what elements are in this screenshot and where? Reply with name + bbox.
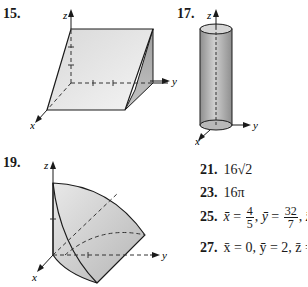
z-axis-label: z <box>206 9 212 21</box>
xbar: x̄ <box>224 209 230 224</box>
y-axis-label: y <box>161 249 167 261</box>
answer-27: 27.x̄ = 0, ȳ = 2, z̄ = 0 <box>200 240 307 256</box>
denominator: 5 <box>246 218 254 230</box>
x-axis-label: x <box>31 271 37 283</box>
answer-text: 16√2 <box>224 162 253 177</box>
figure-15-y-axis-arrow: y <box>150 75 180 87</box>
answer-number: 27. <box>200 240 218 255</box>
figure-15-wedge: z x <box>30 5 170 135</box>
figure-19-curved-solid: z y x <box>30 155 170 287</box>
figure-number-19: 19. <box>3 155 21 171</box>
y-axis-label: y <box>252 119 258 131</box>
zbar: z̄ <box>306 209 307 224</box>
answer-text: 16π <box>224 185 245 200</box>
answer-21: 21.16√2 <box>200 162 252 178</box>
answer-text: x̄ = 0, ȳ = 2, z̄ = 0 <box>224 240 308 255</box>
answer-number: 21. <box>200 162 218 177</box>
x-axis-label: x <box>30 119 35 131</box>
figure-number-17: 17. <box>177 6 195 22</box>
answer-23: 23.16π <box>200 185 245 201</box>
fraction-x: 45 <box>246 205 254 230</box>
answer-number: 23. <box>200 185 218 200</box>
z-axis-label: z <box>62 9 68 21</box>
figure-number-15: 15. <box>3 6 21 22</box>
y-axis-label: y <box>171 75 177 87</box>
fraction-y: 327 <box>284 205 298 230</box>
z-axis-label: z <box>43 159 49 171</box>
figure-17-cylinder: z y x <box>195 5 307 145</box>
denominator: 7 <box>284 218 298 230</box>
answer-number: 25. <box>200 209 218 224</box>
x-axis-label: x <box>195 135 200 145</box>
ybar: ȳ <box>262 209 268 224</box>
answer-25: 25.x̄ = 45, ȳ = 327, z̄ = 83 <box>200 205 307 230</box>
